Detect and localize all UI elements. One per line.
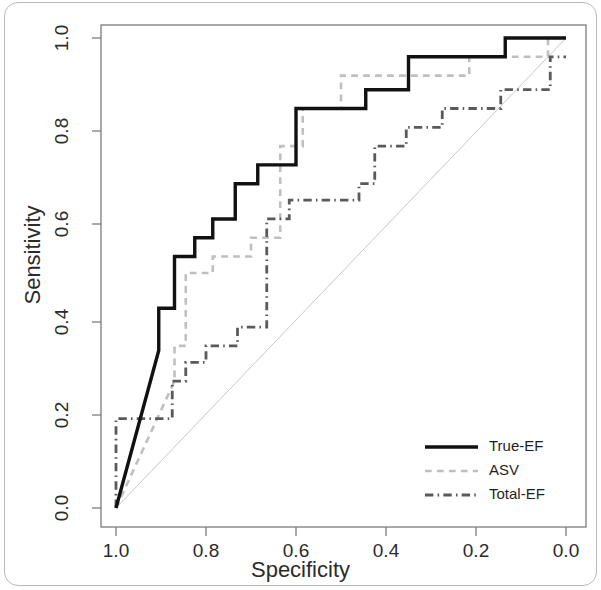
x-tick-label-0.6: 0.6: [266, 540, 326, 562]
x-tick-label-1.0: 1.0: [86, 540, 146, 562]
y-axis-title: Sensitivity: [20, 185, 46, 325]
x-tick-label-0.8: 0.8: [176, 540, 236, 562]
legend-line-samples: [425, 447, 478, 495]
x-tick-label-0.0: 0.0: [536, 540, 596, 562]
y-tick-label-0.4: 0.4: [51, 294, 73, 350]
axis-layer: [92, 25, 586, 536]
y-tick-label-0.6: 0.6: [51, 196, 73, 252]
x-tick-label-0.2: 0.2: [446, 540, 506, 562]
legend-label-total-ef: Total-EF: [489, 485, 545, 502]
legend-label-true-ef: True-EF: [489, 437, 543, 454]
y-tick-label-0.2: 0.2: [51, 387, 73, 443]
roc-curve-figure: Sensitivity Specificity 1.00.80.60.40.20…: [0, 0, 601, 590]
y-tick-label-0.0: 0.0: [51, 480, 73, 536]
y-tick-label-0.8: 0.8: [51, 103, 73, 159]
x-tick-label-0.4: 0.4: [356, 540, 416, 562]
y-tick-label-1.0: 1.0: [51, 10, 73, 66]
legend-label-asv: ASV: [489, 461, 519, 478]
